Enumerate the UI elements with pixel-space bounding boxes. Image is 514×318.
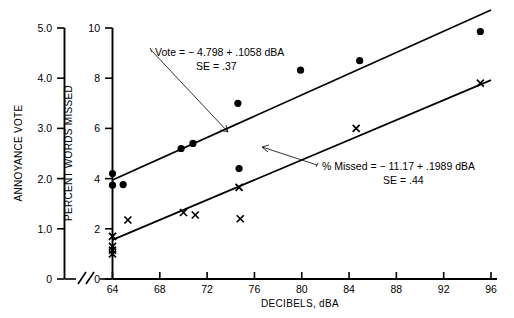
x-tick-group — [113, 272, 492, 279]
annoyance-ticklabel-group: 01.02.03.04.05.0 — [37, 22, 52, 285]
data-point-circle — [178, 145, 185, 152]
axis-percent-words-missed: 0246810 PERCENT WORDS MISSED — [63, 22, 113, 285]
percent-missed-ticklabel: 0 — [94, 273, 100, 285]
x-ticklabel: 76 — [249, 283, 261, 295]
percent-missed-tick-group — [105, 28, 113, 279]
data-point-circle — [235, 165, 242, 172]
x-ticklabel: 96 — [485, 283, 497, 295]
annoyance-ticklabel: 5.0 — [37, 22, 52, 34]
data-point-circle — [109, 170, 116, 177]
data-point-x — [353, 125, 360, 132]
axis-annoyance-vote: 01.02.03.04.05.0 ANNOYANCE VOTE — [13, 22, 65, 285]
data-point-circle — [477, 28, 484, 35]
data-point-circle — [109, 182, 116, 189]
annoyance-ticklabel: 1.0 — [37, 223, 52, 235]
annotation-missed-equation: % Missed = − 11.17 + .1989 dBA — [322, 160, 475, 172]
regression-line-group — [113, 10, 492, 240]
annoyance-ticklabel: 2.0 — [37, 173, 52, 185]
axis-decibels: 646872768084889296 DECIBELS, dBA — [107, 272, 497, 309]
annotation-vote-equation: Vote = − 4.798 + .1058 dBA — [155, 46, 284, 58]
annotation-vote: Vote = − 4.798 + .1058 dBA SE = .37 — [155, 46, 284, 72]
x-ticklabel: 80 — [296, 283, 308, 295]
x-axis-label: DECIBELS, dBA — [261, 298, 339, 309]
annotation-missed: % Missed = − 11.17 + .1989 dBA SE = .44 — [322, 160, 475, 186]
percent-missed-ticklabel-group: 0246810 — [88, 22, 100, 285]
x-ticklabel: 84 — [343, 283, 355, 295]
data-point-circle — [234, 100, 241, 107]
annoyance-ticklabel: 4.0 — [37, 72, 52, 84]
y-axis-outer-label: ANNOYANCE VOTE — [13, 105, 24, 202]
data-point-circle — [356, 57, 363, 64]
chart-svg: 01.02.03.04.05.0 ANNOYANCE VOTE 0246810 … — [0, 0, 514, 318]
vote-fit — [113, 10, 492, 180]
data-point-circle — [120, 181, 127, 188]
annoyance-ticklabel: 0 — [46, 273, 52, 285]
data-point-circle — [297, 67, 304, 74]
percent-missed-ticklabel: 4 — [94, 173, 100, 185]
data-point-x — [237, 215, 244, 222]
percent-missed-ticklabel: 6 — [94, 122, 100, 134]
percent-missed-ticklabel: 8 — [94, 72, 100, 84]
x-ticklabel: 64 — [107, 283, 119, 295]
annotation-vote-se: SE = .37 — [196, 60, 237, 72]
figure-canvas: 01.02.03.04.05.0 ANNOYANCE VOTE 0246810 … — [0, 0, 514, 318]
annotation-missed-se: SE = .44 — [383, 174, 424, 186]
x-ticklabel: 92 — [438, 283, 450, 295]
percent-missed-ticklabel: 2 — [94, 223, 100, 235]
x-ticklabel: 68 — [154, 283, 166, 295]
x-ticklabel: 72 — [201, 283, 213, 295]
annoyance-ticklabel: 3.0 — [37, 122, 52, 134]
y-axis-inner-label: PERCENT WORDS MISSED — [63, 85, 74, 221]
data-point-x — [124, 217, 131, 224]
percent-missed-ticklabel: 10 — [88, 22, 100, 34]
x-ticklabel-group: 646872768084889296 — [107, 283, 497, 295]
axis-break-icon — [65, 272, 113, 284]
data-point-circle — [189, 140, 196, 147]
data-point-x — [192, 211, 199, 218]
x-ticklabel: 88 — [391, 283, 403, 295]
